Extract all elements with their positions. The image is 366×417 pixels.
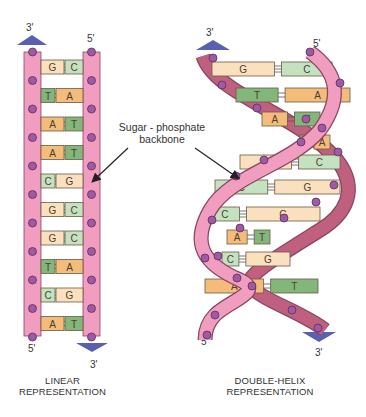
sugar-phosphate-label-line2: backbone [112,133,212,145]
linear-bottom-3prime-triangle [76,343,108,352]
svg-text:A: A [234,232,241,243]
base-g-left-5: G [41,203,64,217]
svg-text:C: C [70,205,77,216]
base-a-left-3: A [41,146,64,160]
svg-text:T: T [71,148,77,159]
base-t-left-7: T [41,260,55,274]
svg-text:T: T [71,319,77,330]
svg-text:T: T [259,232,265,243]
svg-text:T: T [45,91,51,102]
linear-top-3prime-triangle [17,35,47,45]
svg-text:A: A [49,119,56,130]
base-c-right-0: C [65,60,83,74]
svg-text:C: C [44,290,51,301]
base-c-left-4: C [41,174,55,188]
helix-caption-line1: DOUBLE-HELIX [215,375,325,386]
base-c-right-6: C [65,231,83,245]
helix-top-3prime-triangle [196,40,230,50]
base-t-left-1: T [41,89,55,103]
svg-text:A: A [66,262,73,273]
svg-text:T: T [254,90,260,101]
base-a-left-7: A [227,230,247,244]
svg-text:A: A [314,90,321,101]
base-g-right-8: G [246,252,290,266]
base-c-right-4: C [299,155,341,169]
linear-bottom-left-end: 5' [28,343,36,354]
svg-text:T: T [45,262,51,273]
svg-text:C: C [221,209,228,220]
svg-text:C: C [44,176,51,187]
linear-caption-line1: LINEAR [10,375,115,386]
svg-text:C: C [303,64,310,75]
base-t-right-9: T [271,279,318,293]
svg-text:T: T [291,281,297,292]
sugar-phosphate-label-line1: Sugar - phosphate [112,121,212,133]
base-g-left-0: G [41,60,64,74]
svg-text:A: A [271,114,278,125]
svg-text:C: C [70,62,77,73]
helix-top-left-end: 3' [206,27,214,38]
svg-text:G: G [49,62,57,73]
svg-text:G: G [49,233,57,244]
linear-top-left-end: 3' [26,22,34,33]
linear-caption-line2: REPRESENTATION [10,386,115,397]
svg-text:C: C [227,254,234,265]
svg-text:A: A [49,148,56,159]
base-t-right-3: T [65,146,83,160]
base-a-left-2: A [41,117,64,131]
base-g-right-4: G [56,174,83,188]
linear-bottom-right-end: 3' [90,359,98,370]
base-c-right-5: C [65,203,83,217]
base-c-left-8: C [41,288,55,302]
helix-caption-line2: REPRESENTATION [215,386,325,397]
linear-caption: LINEAR REPRESENTATION [10,375,115,397]
svg-text:A: A [49,319,56,330]
base-a-left-2: A [262,112,288,126]
helix-bottom-right-end: 3' [315,347,323,358]
dna-diagram: 3' 5' 5' 3' GCTAATATCGGCGCTACGAT 3' 5' 5… [0,0,366,417]
svg-text:T: T [71,119,77,130]
annotation-arrow-right [195,148,238,178]
svg-text:G: G [66,176,74,187]
base-a-right-7: A [56,260,83,274]
svg-text:G: G [264,254,272,265]
svg-text:G: G [49,205,57,216]
base-g-left-0: G [212,62,275,76]
svg-text:G: G [66,290,74,301]
sugar-phosphate-label: Sugar - phosphate backbone [112,121,212,145]
helix-caption: DOUBLE-HELIX REPRESENTATION [215,375,325,397]
svg-text:G: G [303,182,311,193]
base-g-right-8: G [56,288,83,302]
svg-text:G: G [239,64,247,75]
svg-text:C: C [316,157,323,168]
svg-text:C: C [70,233,77,244]
base-t-right-2: T [65,117,83,131]
svg-text:A: A [66,91,73,102]
linear-representation: 3' 5' 5' 3' GCTAATATCGGCGCTACGAT [17,22,108,370]
base-t-left-1: T [236,88,278,102]
linear-top-right-end: 5' [87,33,95,44]
linear-base-pairs: GCTAATATCGGCGCTACGAT [41,60,83,331]
base-t-right-7: T [254,230,270,244]
base-t-right-9: T [65,317,83,331]
double-helix-representation: 3' 5' 5' 3' GCTAATTAGCCGCGATCGAT [196,27,350,358]
base-g-left-6: G [41,231,64,245]
base-a-right-1: A [56,89,83,103]
base-a-left-9: A [41,317,64,331]
